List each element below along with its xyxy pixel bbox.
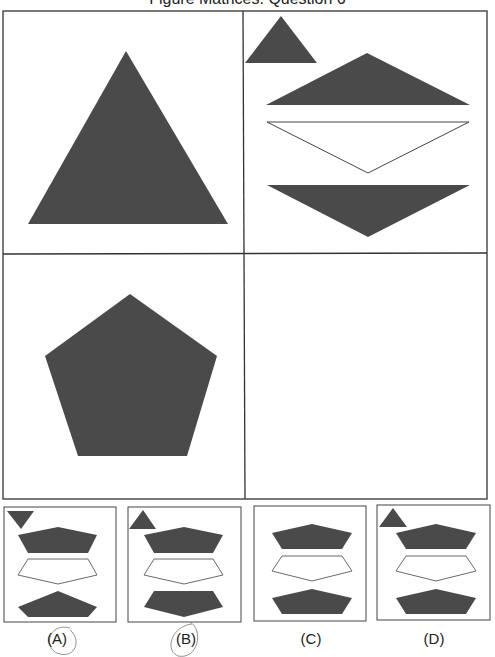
- option-a[interactable]: [4, 507, 116, 622]
- triangle-stack: [245, 16, 470, 237]
- option-b-label[interactable]: (B): [156, 630, 216, 647]
- figure-matrix: [0, 0, 495, 657]
- small-triangle-marker: [245, 16, 317, 63]
- option-d[interactable]: [377, 505, 490, 620]
- large-triangle: [28, 51, 228, 224]
- white-inverted-triangle: [267, 122, 469, 173]
- option-d-label[interactable]: (D): [404, 630, 464, 647]
- option-b[interactable]: [128, 507, 241, 622]
- large-pentagon: [45, 294, 217, 456]
- option-c-label[interactable]: (C): [281, 630, 341, 647]
- dark-inverted-triangle: [267, 185, 470, 237]
- option-c[interactable]: [254, 506, 366, 621]
- option-a-label[interactable]: (A): [27, 630, 87, 647]
